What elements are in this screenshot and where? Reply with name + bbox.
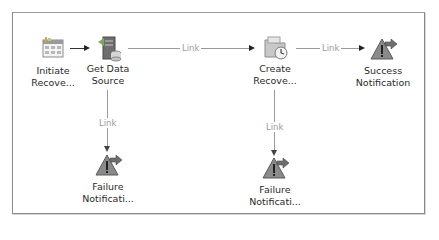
node-create-recovery[interactable]: Create Recove... — [237, 34, 313, 87]
link-label[interactable]: Link — [320, 43, 341, 53]
node-label: Failure Notificati... — [237, 184, 313, 208]
node-success-notification[interactable]: Success Notification — [345, 36, 421, 89]
calendar-icon — [40, 36, 66, 62]
link-label[interactable]: Link — [97, 118, 118, 128]
node-label: Get Data Source — [70, 63, 146, 87]
node-label: Success Notification — [345, 65, 421, 89]
link-label[interactable]: Link — [264, 122, 285, 132]
node-label: Failure Notificati... — [70, 181, 146, 205]
folder-clock-icon — [262, 34, 288, 60]
node-failure-notification-2[interactable]: Failure Notificati... — [237, 155, 313, 208]
node-get-data-source[interactable]: Get Data Source — [70, 34, 146, 87]
warning-forward-icon — [95, 152, 121, 178]
link-label[interactable]: Link — [180, 43, 201, 53]
node-label: Create Recove... — [237, 63, 313, 87]
node-failure-notification-1[interactable]: Failure Notificati... — [70, 152, 146, 205]
warning-forward-icon — [370, 36, 396, 62]
server-database-icon — [95, 34, 121, 60]
warning-forward-icon — [262, 155, 288, 181]
